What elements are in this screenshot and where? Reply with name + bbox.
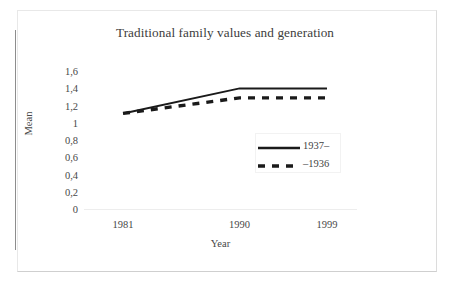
x-axis-tick-labels: 1981 1990 1999 [84, 219, 357, 233]
legend-item-solid: 1937– [256, 136, 340, 156]
legend-item-dashed: –1936 [256, 154, 340, 174]
y-tick-label: 1,4 [38, 84, 78, 95]
y-axis-tick-labels: 1,6 1,4 1,2 1 0,8 0,6 0,4 0,2 0 [36, 72, 78, 210]
y-tick-label: 0,8 [38, 136, 78, 147]
x-axis-title: Year [84, 238, 357, 249]
chart-legend: 1937– –1936 [255, 133, 341, 173]
y-tick-label: 0,4 [38, 170, 78, 181]
y-tick-label: 0,6 [38, 153, 78, 164]
chart-title: Traditional family values and generation [60, 25, 390, 41]
legend-swatch-dashed-line-icon [256, 158, 302, 170]
y-tick-label: 0 [38, 205, 78, 216]
x-tick-label: 1999 [297, 219, 357, 230]
legend-swatch-solid-line-icon [256, 140, 302, 152]
x-tick-label: 1990 [210, 219, 270, 230]
legend-label: –1936 [303, 159, 329, 170]
line-chart: Traditional family values and generation… [0, 0, 459, 288]
legend-label: 1937– [303, 141, 329, 152]
y-axis-title: Mean [23, 94, 34, 154]
y-tick-label: 1 [38, 119, 78, 130]
x-tick-label: 1981 [93, 219, 153, 230]
series-line-1936-minus [123, 98, 327, 114]
y-tick-label: 1,2 [38, 101, 78, 112]
y-tick-label: 1,6 [38, 67, 78, 78]
y-tick-label: 0,2 [38, 188, 78, 199]
